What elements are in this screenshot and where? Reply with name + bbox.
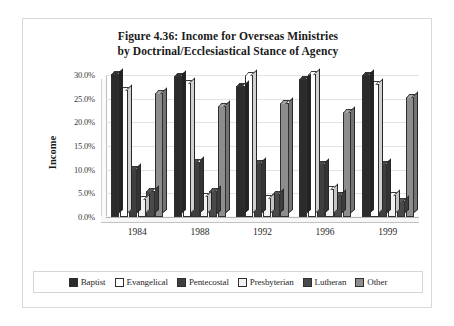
figure-frame: Figure 4.36: Income for Overseas Ministr… — [22, 18, 432, 308]
bar-baptist-1992[interactable] — [236, 86, 244, 217]
legend-item-evangelical[interactable]: Evangelical — [115, 277, 168, 287]
legend-label: Other — [367, 277, 387, 287]
gridline — [106, 217, 419, 218]
figure-title-line-2: by Doctrinal/Ecclesiastical Stance of Ag… — [23, 44, 433, 59]
bars-layer — [106, 75, 419, 217]
x-axis-tick: 1988 — [190, 227, 209, 237]
y-axis-title: Income — [47, 108, 58, 198]
legend-item-lutheran[interactable]: Lutheran — [303, 277, 347, 287]
y-axis-tick: 10.0% — [74, 165, 95, 175]
bar-group — [169, 75, 232, 217]
x-axis-tick: 1992 — [253, 227, 272, 237]
x-axis-tick: 1999 — [378, 227, 397, 237]
bar-baptist-1996[interactable] — [299, 79, 307, 217]
legend-item-presbyterian[interactable]: Presbyterian — [238, 277, 294, 287]
y-axis-tick: 5.0% — [78, 188, 95, 198]
legend-swatch-icon — [177, 278, 186, 287]
y-axis-tick-labels: 0.0%5.0%10.0%15.0%20.0%25.0%30.0% — [57, 75, 97, 223]
legend-swatch-icon — [355, 278, 364, 287]
legend-swatch-icon — [115, 278, 124, 287]
bar-baptist-1984[interactable] — [111, 74, 119, 217]
y-axis-tick: 25.0% — [74, 94, 95, 104]
bar-group — [356, 75, 419, 217]
legend-swatch-icon — [238, 278, 247, 287]
bar-baptist-1999[interactable] — [362, 75, 370, 217]
legend-item-pentecostal[interactable]: Pentecostal — [177, 277, 229, 287]
legend-swatch-icon — [303, 278, 312, 287]
y-axis-tick: 0.0% — [78, 212, 95, 222]
bar-baptist-1988[interactable] — [174, 76, 182, 217]
legend-label: Presbyterian — [250, 277, 294, 287]
figure-title-line-1: Figure 4.36: Income for Overseas Ministr… — [23, 29, 433, 44]
figure-title: Figure 4.36: Income for Overseas Ministr… — [23, 29, 433, 59]
x-axis-tick-labels: 19841988199219961999 — [101, 227, 419, 243]
legend-item-baptist[interactable]: Baptist — [69, 277, 106, 287]
legend-label: Pentecostal — [189, 277, 229, 287]
bar-group — [231, 75, 294, 217]
legend-item-other[interactable]: Other — [355, 277, 387, 287]
legend-label: Baptist — [81, 277, 106, 287]
x-axis-tick: 1996 — [316, 227, 335, 237]
chart-legend: BaptistEvangelicalPentecostalPresbyteria… — [33, 271, 423, 293]
y-axis-tick: 15.0% — [74, 141, 95, 151]
bar-group — [106, 75, 169, 217]
x-axis-tick: 1984 — [128, 227, 147, 237]
chart-plot-region: Income 0.0%5.0%10.0%15.0%20.0%25.0%30.0%… — [23, 75, 433, 265]
legend-label: Evangelical — [127, 277, 168, 287]
legend-label: Lutheran — [315, 277, 347, 287]
bar-group — [294, 75, 357, 217]
plot-box — [101, 75, 419, 223]
y-axis-tick: 30.0% — [74, 70, 95, 80]
legend-swatch-icon — [69, 278, 78, 287]
y-axis-tick: 20.0% — [74, 117, 95, 127]
